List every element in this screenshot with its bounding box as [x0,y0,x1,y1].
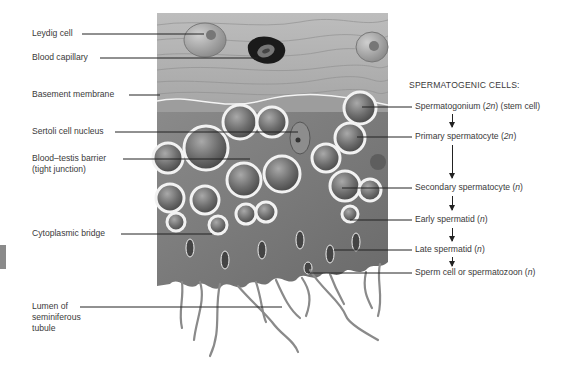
label-text: Primary spermatocyte ( [415,131,504,141]
label-suffix: ) [520,182,523,192]
label-leydig-cell: Leydig cell [32,28,73,39]
label-suffix: ) [485,214,488,224]
label-text: Sperm cell or spermatozoon ( [415,267,528,277]
label-primary-spermatocyte: Primary spermatocyte (2n) [415,131,516,142]
label-early-spermatid: Early spermatid (n) [415,214,488,225]
arrow-down-icon [452,257,453,266]
label-suffix: ) (stem cell) [495,101,540,111]
heading-spermatogenic-cells: SPERMATOGENIC CELLS: [409,80,520,91]
ploidy: 2n [486,101,496,111]
label-lumen-line3: tubule [32,323,55,334]
label-lumen-line2: seminiferous [32,312,81,323]
label-tight-junction: (tight junction) [32,164,86,175]
ploidy: 2n [504,131,514,141]
label-suffix: ) [513,131,516,141]
label-text: Secondary spermatocyte ( [415,182,515,192]
label-cytoplasmic-bridge: Cytoplasmic bridge [32,228,105,239]
arrow-down-icon [452,114,453,127]
label-sertoli-cell-nucleus: Sertoli cell nucleus [32,126,104,137]
label-text: Late spermatid ( [415,244,477,254]
label-secondary-spermatocyte: Secondary spermatocyte (n) [415,182,523,193]
label-basement-membrane: Basement membrane [32,89,114,100]
page-edge-tab [0,245,6,269]
arrow-down-icon [452,145,453,178]
label-lumen-line1: Lumen of [32,301,68,312]
label-blood-testis-barrier: Blood–testis barrier [32,153,106,164]
arrow-down-icon [452,196,453,210]
label-spermatogonium: Spermatogonium (2n) (stem cell) [415,101,540,112]
label-text: Early spermatid ( [415,214,480,224]
label-late-spermatid: Late spermatid (n) [415,244,485,255]
label-suffix: ) [482,244,485,254]
arrow-down-icon [452,228,453,241]
label-blood-capillary: Blood capillary [32,52,88,63]
label-text: Spermatogonium ( [415,101,486,111]
germinal-epithelium [153,92,388,289]
label-suffix: ) [533,267,536,277]
label-sperm-cell: Sperm cell or spermatozoon (n) [415,267,535,278]
